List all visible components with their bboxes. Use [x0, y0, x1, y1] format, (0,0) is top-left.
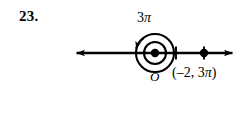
coordinate-close-paren: )	[212, 65, 217, 80]
angle-measure-label: 3π	[137, 11, 151, 25]
plotted-point	[200, 49, 208, 57]
coordinate-radius: –2	[177, 65, 191, 80]
point-coordinate-label: (–2, 3π)	[172, 66, 216, 80]
rotation-direction-arrow	[136, 38, 143, 48]
origin-point	[151, 49, 159, 57]
coordinate-pi-symbol: π	[205, 65, 212, 80]
angle-coefficient: 3	[137, 10, 144, 25]
origin-label: O	[150, 70, 159, 83]
coordinate-separator: ,	[191, 65, 198, 80]
figure-drawing	[0, 0, 247, 117]
polar-graph-figure: 23. 3	[0, 0, 247, 117]
coordinate-theta-coefficient: 3	[198, 65, 205, 80]
angle-pi-symbol: π	[144, 10, 151, 25]
